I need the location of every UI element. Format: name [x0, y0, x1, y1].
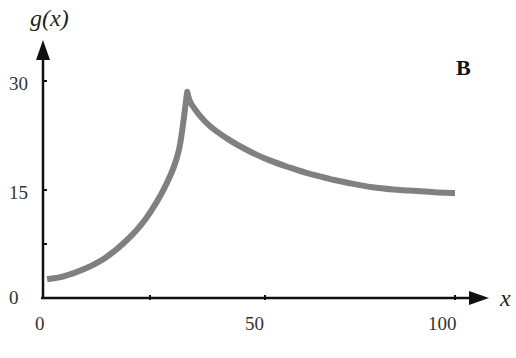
y-tick-label-15: 15: [9, 182, 28, 203]
y-tick-label-30: 30: [9, 73, 28, 94]
x-axis-label: x: [499, 285, 511, 311]
x-tick-label-100: 100: [428, 313, 457, 334]
chart-figure: 30 15 0 0 50 100 g(x) x B: [0, 0, 516, 358]
x-tick-label-50: 50: [245, 313, 264, 334]
y-axis-label: g(x): [30, 5, 69, 31]
y-tick-label-0: 0: [9, 287, 19, 308]
panel-label: B: [456, 55, 471, 80]
y-axis-arrow-icon: [36, 40, 50, 60]
x-axis-arrow-icon: [469, 291, 489, 305]
g-curve: [47, 92, 455, 280]
x-tick-label-0: 0: [35, 313, 45, 334]
